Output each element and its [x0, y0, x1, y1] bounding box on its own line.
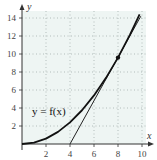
x-axis-label: x — [146, 130, 152, 141]
y-tick-label: 2 — [12, 121, 17, 131]
y-tick-label: 4 — [12, 103, 17, 113]
y-axis-arrow-icon — [20, 4, 25, 10]
x-tick-label: 6 — [92, 149, 97, 159]
x-tick-label: 8 — [116, 149, 121, 159]
x-axis-arrow-icon — [148, 142, 154, 147]
x-tick-label: 4 — [68, 149, 73, 159]
y-tick-label: 12 — [7, 31, 16, 41]
function-label: y = f(x) — [32, 105, 66, 118]
tangent-point — [116, 55, 120, 59]
y-tick-label: 6 — [12, 85, 17, 95]
chart: 2 4 6 8 10 2 4 6 8 10 12 14 y x y = f(x) — [0, 0, 157, 160]
y-tick-label: 10 — [7, 49, 17, 59]
y-axis-label: y — [26, 1, 32, 12]
y-tick-label: 14 — [7, 13, 17, 23]
x-tick-label: 10 — [138, 149, 148, 159]
y-tick-label: 8 — [12, 67, 17, 77]
plot-area — [22, 11, 146, 144]
x-tick-label: 2 — [44, 149, 49, 159]
